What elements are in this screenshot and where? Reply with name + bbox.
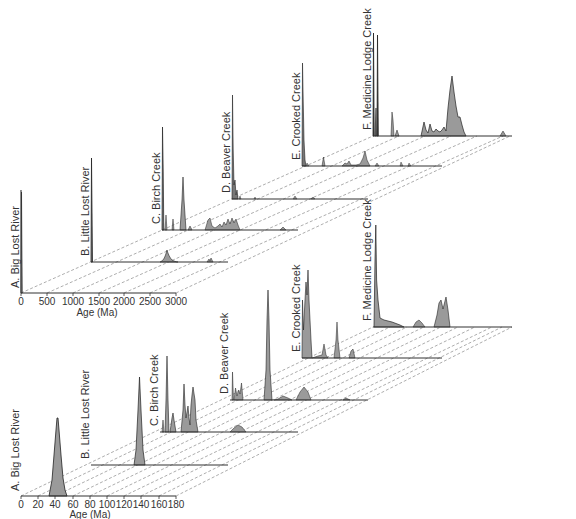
top-label-d: D. Beaver Creek: [220, 111, 232, 193]
bottom-tick-0: 0: [18, 499, 24, 510]
top-tick-500: 500: [39, 296, 56, 307]
bottom-axis-title: Age (Ma): [69, 509, 110, 519]
bottom-tick-120: 120: [116, 499, 133, 510]
top-tick-0: 0: [18, 296, 24, 307]
top-label-b: B. Little Lost River: [79, 166, 91, 256]
top-tick-1000: 1000: [62, 296, 85, 307]
top-label-e: E. Crooked Creek: [290, 72, 302, 160]
bottom-label-c: C. Birch Creek: [148, 354, 160, 426]
bottom-tick-160: 160: [151, 499, 168, 510]
top-label-a: A. Big Lost River: [9, 206, 21, 288]
top-tick-1500: 1500: [88, 296, 111, 307]
bottom-tick-20: 20: [32, 499, 44, 510]
bottom-tick-180: 180: [168, 499, 185, 510]
top-tick-3000: 3000: [165, 296, 188, 307]
bottom-tick-40: 40: [49, 499, 61, 510]
detrital-zircon-figure: A. Big Lost River B. Little Lost River C…: [0, 0, 576, 519]
bottom-label-a: A. Big Lost River: [9, 409, 21, 491]
bottom-tick-140: 140: [133, 499, 150, 510]
top-label-c: C. Birch Creek: [150, 152, 162, 224]
top-perspective-lines: [21, 136, 510, 293]
bottom-label-d: D. Beaver Creek: [218, 312, 230, 394]
top-axis-title: Age (Ma): [76, 307, 117, 318]
bottom-label-f: F. Medicine Lodge Creek: [361, 199, 373, 321]
top-tick-2000: 2000: [113, 296, 136, 307]
top-tick-2500: 2500: [139, 296, 162, 307]
bottom-series-f: F. Medicine Lodge Creek: [361, 199, 512, 327]
bottom-label-e: E. Crooked Creek: [290, 264, 302, 352]
top-panel: A. Big Lost River B. Little Lost River C…: [9, 8, 512, 318]
top-label-f: F. Medicine Lodge Creek: [361, 8, 373, 130]
bottom-x-axis: 0 20 40 60 80 100 120 140 160 180 Age (M…: [18, 499, 185, 519]
bottom-label-b: B. Little Lost River: [79, 369, 91, 459]
top-series-f: F. Medicine Lodge Creek: [361, 8, 512, 136]
top-x-axis: 0 500 1000 1500 2000 2500 3000 Age (Ma): [18, 296, 187, 318]
